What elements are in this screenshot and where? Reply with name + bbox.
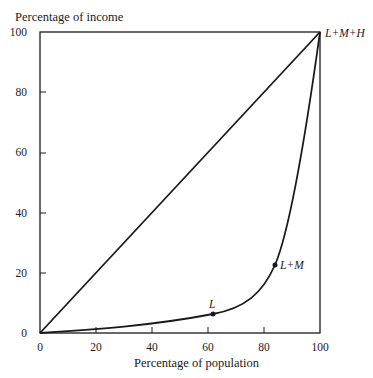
annotation-l-m: L+M: [280, 259, 304, 271]
equality-line: [40, 32, 320, 333]
chart-plot: [0, 0, 373, 378]
annotation-l-m-h: L+M+H: [325, 27, 365, 39]
point-l-m: [273, 263, 278, 268]
point-l: [211, 312, 216, 317]
x-axis-label: Percentage of population: [0, 356, 373, 371]
annotation-l: L: [209, 298, 215, 310]
